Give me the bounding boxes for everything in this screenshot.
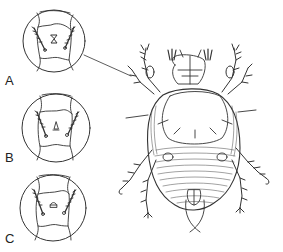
inset-label-a: A — [5, 74, 14, 87]
inset-a — [23, 10, 85, 72]
leader-line — [84, 55, 131, 76]
mite-figure: A B C — [0, 0, 283, 252]
inset-b — [22, 94, 90, 162]
mite — [119, 44, 269, 232]
inset-c — [20, 175, 86, 241]
inset-label-b: B — [5, 151, 14, 164]
illustration — [0, 0, 283, 252]
inset-label-c: C — [5, 232, 14, 245]
